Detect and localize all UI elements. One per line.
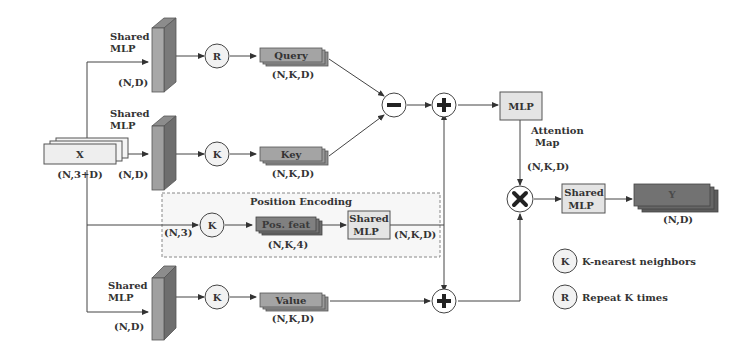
input-x-label: X — [76, 149, 84, 160]
value-shape: (N,K,D) — [272, 313, 314, 325]
key-shape: (N,K,D) — [272, 168, 314, 180]
minus-icon — [387, 103, 401, 107]
pos-feat-shape: (N,K,4) — [268, 239, 309, 251]
svg-text:MLP: MLP — [353, 226, 379, 237]
query-mlp-label-1: Shared — [110, 31, 150, 42]
svg-text:K: K — [208, 220, 217, 231]
subtract-operator — [382, 93, 406, 117]
value-mlp-label-2: MLP — [108, 292, 134, 303]
attention-map-shape: (N,K,D) — [527, 161, 569, 173]
value-label: Value — [275, 295, 307, 306]
add-operator-top — [432, 93, 456, 117]
query-label: Query — [274, 50, 309, 61]
output-y-stack: Y (N,D) — [634, 184, 718, 226]
value-mlp-shape: (N,D) — [114, 321, 144, 333]
input-x-shape: (N,3+D) — [57, 169, 102, 181]
legend-item-repeat: R Repeat K times — [553, 285, 668, 309]
repeat-op-query: R — [205, 44, 229, 68]
svg-text:Shared: Shared — [564, 187, 604, 198]
svg-text:K: K — [213, 292, 222, 303]
key-mlp-label-2: MLP — [110, 120, 136, 131]
position-in-shape: (N,3) — [164, 227, 192, 239]
key-tensor: Key (N,K,D) — [260, 147, 328, 180]
svg-text:K: K — [213, 149, 222, 160]
output-y-label: Y — [667, 189, 676, 200]
key-mlp-label-1: Shared — [110, 108, 150, 119]
query-mlp-label-2: MLP — [110, 43, 136, 54]
svg-text:MLP: MLP — [568, 200, 594, 211]
legend: K K-nearest neighbors R Repeat K times — [553, 249, 696, 309]
query-mlp-shape: (N,D) — [118, 77, 148, 89]
output-shared-mlp: Shared MLP — [562, 184, 605, 213]
legend-repeat-text: Repeat K times — [582, 292, 668, 303]
key-mlp-shape: (N,D) — [118, 169, 148, 181]
svg-text:R: R — [213, 51, 222, 62]
svg-text:Shared: Shared — [349, 213, 389, 224]
knn-op-value: K — [205, 285, 229, 309]
query-shared-mlp: Shared MLP (N,D) — [110, 18, 176, 92]
add-operator-bottom — [432, 289, 456, 313]
attention-map-label-1: Attention — [530, 125, 585, 136]
output-y-shape: (N,D) — [663, 214, 693, 226]
knn-op-key: K — [205, 142, 229, 166]
key-label: Key — [281, 149, 303, 160]
position-encoding-title: Position Encoding — [250, 196, 352, 207]
svg-text:R: R — [561, 292, 570, 303]
legend-knn-text: K-nearest neighbors — [582, 256, 696, 267]
input-x-stack: X (N,3+D) — [44, 138, 128, 181]
svg-text:MLP: MLP — [508, 101, 534, 112]
query-shape: (N,K,D) — [272, 69, 314, 81]
query-tensor: Query (N,K,D) — [260, 48, 328, 81]
legend-item-knn: K K-nearest neighbors — [553, 249, 696, 273]
position-out-shape: (N,K,D) — [394, 229, 436, 241]
attention-mlp: MLP Attention Map (N,K,D) — [500, 92, 585, 173]
architecture-diagram: Position Encoding — [0, 0, 754, 354]
pos-feat-label: Pos. feat — [262, 219, 311, 230]
value-mlp-label-1: Shared — [108, 280, 148, 291]
value-tensor: Value (N,K,D) — [260, 293, 328, 325]
value-shared-mlp: Shared MLP (N,D) — [108, 266, 176, 340]
plus-icon-v — [442, 98, 446, 112]
multiply-operator — [507, 186, 533, 212]
svg-text:K: K — [561, 256, 570, 267]
attention-map-label-2: Map — [535, 137, 560, 148]
plus-icon-v — [442, 294, 446, 308]
